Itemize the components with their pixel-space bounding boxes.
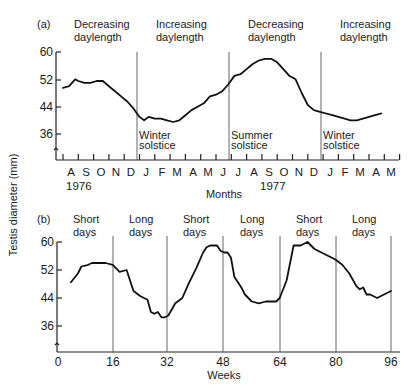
figure: Testis diameter (mm) (a) Decreasing dayl… — [0, 0, 418, 392]
period-label: days — [352, 226, 376, 238]
month-label: S — [82, 166, 90, 178]
panel-b: (b) Short days Long days Short days Long… — [37, 213, 400, 381]
panel-a-x-axis: A S O N D J F M A M J J A S O N D J F M — [56, 154, 400, 200]
solstice-label: solstice — [139, 139, 176, 151]
x-tick-label: 32 — [160, 355, 174, 369]
year-label-1977: 1977 — [260, 180, 286, 192]
period-label: Increasing — [156, 18, 207, 30]
period-label: daylength — [248, 31, 296, 43]
month-label: A — [372, 166, 380, 178]
x-tick-label: 64 — [273, 355, 287, 369]
x-tick-label: 96 — [384, 355, 398, 369]
period-label: daylength — [156, 31, 204, 43]
y-tick-label: 52 — [41, 263, 55, 277]
panel-b-data-line — [71, 242, 391, 317]
period-label: daylength — [74, 31, 122, 43]
period-label: Decreasing — [74, 18, 130, 30]
month-label: M — [355, 166, 365, 178]
month-label: N — [112, 166, 120, 178]
x-tick-label: 48 — [216, 355, 230, 369]
month-label: J — [220, 166, 226, 178]
month-label: M — [386, 166, 396, 178]
month-label: J — [143, 166, 149, 178]
period-label: Long — [352, 213, 376, 225]
month-label: S — [265, 166, 273, 178]
month-label: J — [235, 166, 241, 178]
period-label: days — [240, 226, 264, 238]
period-label: Long — [129, 213, 153, 225]
month-label: F — [341, 166, 348, 178]
x-tick-label: 16 — [106, 355, 120, 369]
month-label: A — [189, 166, 197, 178]
month-label: M — [203, 166, 213, 178]
y-tick-label: 44 — [40, 100, 54, 114]
panel-b-label: (b) — [37, 213, 50, 225]
x-axis-label-months: Months — [206, 188, 243, 200]
period-label: Long — [240, 213, 264, 225]
panel-a: (a) Decreasing daylength Increasing dayl… — [37, 18, 400, 200]
panel-a-data-line — [63, 59, 381, 122]
period-label: Short — [183, 213, 209, 225]
month-label: M — [172, 166, 182, 178]
period-label: Short — [73, 213, 99, 225]
month-label: O — [280, 166, 289, 178]
period-label: days — [129, 226, 153, 238]
month-label: J — [327, 166, 333, 178]
panel-a-label: (a) — [37, 18, 50, 30]
month-label: F — [158, 166, 165, 178]
y-axis-label: Testis diameter (mm) — [7, 154, 19, 257]
panel-a-period-labels: Decreasing daylength Increasing daylengt… — [74, 18, 391, 43]
period-label: daylength — [340, 31, 388, 43]
x-axis-label-weeks: Weeks — [207, 369, 241, 381]
period-label: days — [73, 226, 97, 238]
panel-b-x-axis: 0 16 32 48 64 80 96 Weeks — [55, 352, 400, 381]
y-tick-label: 60 — [41, 235, 55, 249]
x-tick-label: 80 — [329, 355, 343, 369]
solstice-label: solstice — [323, 139, 360, 151]
x-tick-label: 0 — [55, 355, 62, 369]
month-label: D — [310, 166, 318, 178]
y-tick-label: 36 — [40, 127, 54, 141]
month-label: N — [295, 166, 303, 178]
period-label: Decreasing — [248, 18, 304, 30]
solstice-label: solstice — [231, 139, 268, 151]
y-tick-label: 60 — [40, 45, 54, 59]
y-tick-label: 44 — [41, 291, 55, 305]
month-label: A — [250, 166, 258, 178]
period-label: Short — [296, 213, 322, 225]
month-label: O — [97, 166, 106, 178]
month-label: A — [67, 166, 75, 178]
period-label: days — [296, 226, 320, 238]
period-label: Increasing — [340, 18, 391, 30]
month-labels: A S O N D J F M A M J J A S O N D J F M — [67, 166, 396, 178]
period-label: days — [183, 226, 207, 238]
photoperiod-lines — [113, 236, 391, 352]
year-label-1976: 1976 — [66, 180, 92, 192]
month-label: D — [127, 166, 135, 178]
panel-b-period-labels: Short days Long days Short days Long day… — [73, 213, 376, 238]
y-tick-label: 36 — [41, 319, 55, 333]
y-tick-label: 52 — [40, 73, 54, 87]
panel-a-y-axis: 60 52 44 36 — [40, 45, 61, 160]
panel-b-y-axis: 60 52 44 36 — [41, 235, 62, 352]
